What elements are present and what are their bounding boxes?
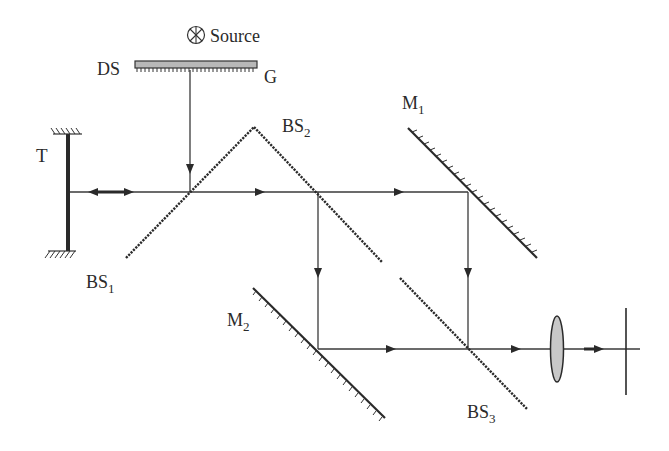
grating-ds-label: DS — [97, 59, 120, 79]
source-label: Source — [210, 26, 260, 46]
m2-label: M2 — [227, 310, 250, 334]
beam-paths — [68, 70, 640, 349]
source-icon — [188, 27, 205, 44]
bs1-label: BS1 — [86, 272, 115, 296]
bs2-label: BS2 — [282, 116, 311, 140]
m1-label: M1 — [402, 93, 425, 117]
mirror-1 — [408, 128, 537, 258]
optical-diagram: Source DS G — [0, 0, 669, 451]
bs3-label: BS3 — [467, 402, 496, 426]
grating — [135, 61, 257, 72]
mirror-2 — [253, 288, 385, 421]
beam-splitter-3 — [400, 278, 527, 409]
grating-g-label: G — [264, 67, 277, 87]
lens — [551, 316, 564, 382]
target-label: T — [36, 145, 48, 166]
target-mirror — [45, 128, 82, 258]
